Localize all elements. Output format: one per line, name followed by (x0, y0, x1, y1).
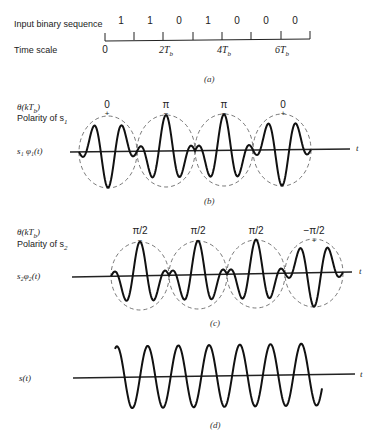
time-axis-a (105, 31, 310, 41)
diagram-graphics (0, 0, 376, 439)
s2-phi2-waveform (72, 239, 352, 310)
s-t-waveform (73, 344, 355, 408)
s1-phi1-waveform (70, 114, 350, 188)
